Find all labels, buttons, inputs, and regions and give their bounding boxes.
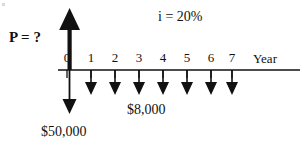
axis-tick-label-6: 6 [204,51,218,64]
axis-tick-label-7: 7 [225,51,239,64]
axis-tick-label-3: 3 [132,51,146,64]
annual-payment-label: $8,000 [127,103,166,117]
principal-amount-label: $50,000 [41,125,87,139]
axis-tick-label-0: 0 [60,51,74,64]
axis-tick-label-5: 5 [180,51,194,64]
payment-arrow-1 [85,70,97,95]
payment-arrow-4 [157,70,169,95]
principal-down-arrow [63,70,77,114]
cash-flow-diagram: P = ? i = 20% $8,000 $50,000 Year 012345… [0,0,306,146]
interest-rate-label: i = 20% [158,10,202,24]
present-value-label: P = ? [9,30,41,45]
axis-tick-label-4: 4 [156,51,170,64]
payment-arrow-5 [181,70,193,95]
payment-arrow-2 [109,70,121,95]
axis-tick-label-2: 2 [108,51,122,64]
payment-arrow-7 [226,70,238,95]
payment-arrow-3 [133,70,145,95]
payment-arrow-6 [205,70,217,95]
axis-unit-label: Year [253,52,277,65]
axis-tick-label-1: 1 [84,51,98,64]
